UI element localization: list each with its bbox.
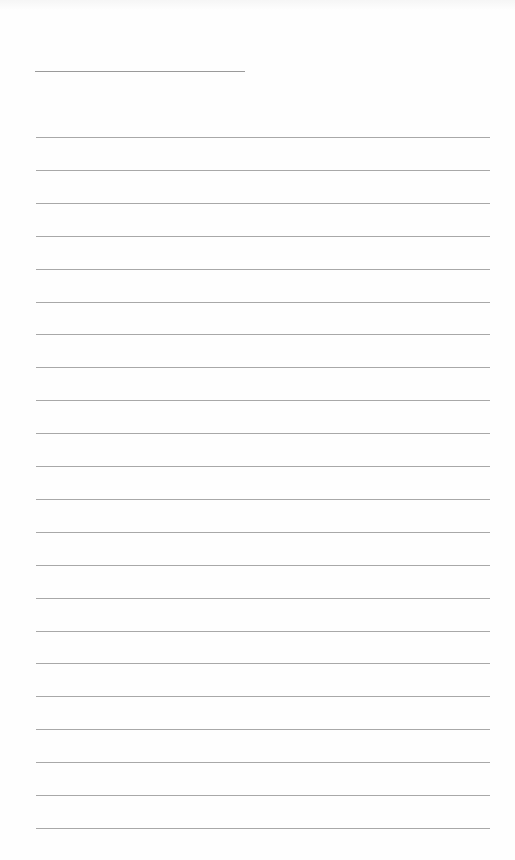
ruled-line	[36, 762, 490, 763]
ruled-line	[36, 203, 490, 204]
ruled-line	[36, 302, 490, 303]
ruled-line	[36, 729, 490, 730]
ruled-line	[36, 565, 490, 566]
lined-paper-page	[0, 0, 515, 860]
ruled-line	[36, 499, 490, 500]
ruled-line	[36, 433, 490, 434]
ruled-line	[36, 170, 490, 171]
ruled-line	[36, 663, 490, 664]
scan-edge-artifact	[0, 0, 515, 10]
ruled-line	[36, 334, 490, 335]
ruled-line	[36, 795, 490, 796]
header-name-line	[35, 71, 245, 72]
ruled-line	[36, 631, 490, 632]
ruled-line	[36, 367, 490, 368]
ruled-line	[36, 696, 490, 697]
ruled-line	[36, 466, 490, 467]
ruled-line	[36, 400, 490, 401]
ruled-line	[36, 236, 490, 237]
ruled-line	[36, 137, 490, 138]
ruled-line	[36, 269, 490, 270]
ruled-line	[36, 532, 490, 533]
ruled-line	[36, 828, 490, 829]
ruled-line	[36, 598, 490, 599]
